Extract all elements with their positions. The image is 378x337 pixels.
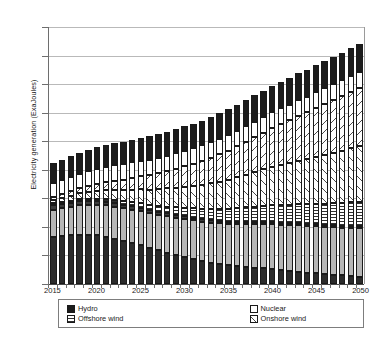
stacked-bar[interactable] (138, 138, 144, 284)
bar-slot-2037[interactable] (242, 27, 251, 284)
legend-item-nuclear[interactable]: Nuclear (250, 304, 327, 313)
stacked-bar[interactable] (85, 150, 91, 284)
bar-segment-onshore-wind (208, 183, 214, 209)
stacked-bar[interactable] (181, 126, 187, 284)
bar-segment-onshore-wind (295, 161, 301, 204)
bar-segment-solar-panels (190, 164, 196, 186)
bar-slot-2016[interactable] (58, 27, 67, 284)
bar-slot-2021[interactable] (102, 27, 111, 284)
bar-slot-2040[interactable] (268, 27, 277, 284)
bar-slot-2033[interactable] (207, 27, 216, 284)
stacked-bar[interactable] (129, 140, 135, 284)
bar-slot-2047[interactable] (329, 27, 338, 284)
bar-slot-2035[interactable] (224, 27, 233, 284)
stacked-bar[interactable] (146, 136, 152, 284)
bar-segment-nuclear (129, 162, 135, 178)
bar-segment-solar-panels (216, 154, 222, 181)
bar-slot-2030[interactable] (180, 27, 189, 284)
bar-slot-2015[interactable] (49, 27, 58, 284)
bar-segment-offshore-wind (304, 204, 310, 224)
legend-label: Nuclear (261, 304, 286, 313)
stacked-bar[interactable] (356, 44, 362, 284)
bar-segment-hydro (146, 136, 152, 159)
stacked-bar[interactable] (120, 142, 126, 284)
stacked-bar[interactable] (155, 134, 161, 284)
stacked-bar[interactable] (234, 105, 240, 284)
stacked-bar[interactable] (251, 95, 257, 284)
bar-segment-solar-panels (208, 158, 214, 183)
stacked-bar[interactable] (330, 57, 336, 284)
bar-slot-2044[interactable] (303, 27, 312, 284)
bar-segment-coal (59, 236, 65, 284)
bar-slot-2023[interactable] (119, 27, 128, 284)
bar-slot-2049[interactable] (347, 27, 356, 284)
bar-segment-solar-panels (234, 146, 240, 177)
bar-segment-coal (339, 275, 345, 284)
bar-slot-2019[interactable] (84, 27, 93, 284)
bar-slot-2017[interactable] (67, 27, 76, 284)
bar-segment-nuclear (295, 100, 301, 116)
stacked-bar[interactable] (216, 113, 222, 284)
legend-item-onshore-wind[interactable]: Onshore wind (250, 314, 327, 323)
bar-segment-coal (199, 261, 205, 284)
bar-segment-coal (85, 235, 91, 284)
stacked-bar[interactable] (321, 61, 327, 284)
bar-slot-2032[interactable] (198, 27, 207, 284)
bar-slot-2034[interactable] (215, 27, 224, 284)
bar-slot-2041[interactable] (277, 27, 286, 284)
stacked-bar[interactable] (76, 153, 82, 284)
x-tick-mark-2037 (242, 284, 243, 288)
bar-slot-2024[interactable] (128, 27, 137, 284)
stacked-bar[interactable] (164, 132, 170, 284)
stacked-bar[interactable] (50, 163, 56, 284)
bar-slot-2031[interactable] (189, 27, 198, 284)
bar-slot-2050[interactable] (355, 27, 364, 284)
legend-item-offshore-wind[interactable]: Offshore wind (67, 314, 150, 323)
bar-segment-hydro (155, 134, 161, 157)
bar-slot-2045[interactable] (312, 27, 321, 284)
stacked-bar[interactable] (295, 73, 301, 284)
stacked-bar[interactable] (173, 129, 179, 284)
stacked-bar[interactable] (199, 121, 205, 284)
stacked-bar[interactable] (260, 91, 266, 284)
stacked-bar[interactable] (348, 48, 354, 284)
bar-slot-2022[interactable] (110, 27, 119, 284)
bar-slot-2027[interactable] (154, 27, 163, 284)
bar-slot-2018[interactable] (75, 27, 84, 284)
stacked-bar[interactable] (190, 124, 196, 284)
bar-segment-coal (129, 243, 135, 284)
bar-segment-solar-panels (173, 169, 179, 188)
bar-slot-2029[interactable] (172, 27, 181, 284)
bar-segment-gas (138, 211, 144, 245)
bar-slot-2046[interactable] (320, 27, 329, 284)
bar-segment-coal (103, 237, 109, 284)
bar-slot-2042[interactable] (285, 27, 294, 284)
stacked-bar[interactable] (59, 160, 65, 284)
bar-slot-2020[interactable] (93, 27, 102, 284)
bar-slot-2038[interactable] (250, 27, 259, 284)
stacked-bar[interactable] (339, 53, 345, 284)
bar-slot-2039[interactable] (259, 27, 268, 284)
stacked-bar[interactable] (269, 86, 275, 284)
legend-item-hydro[interactable]: Hydro (67, 304, 150, 313)
stacked-bar[interactable] (68, 156, 74, 284)
bar-slot-2043[interactable] (294, 27, 303, 284)
bar-segment-hydro (295, 73, 301, 100)
bar-slot-2048[interactable] (338, 27, 347, 284)
bar-slot-2036[interactable] (233, 27, 242, 284)
stacked-bar[interactable] (103, 145, 109, 284)
x-tick-mark-2039 (259, 284, 260, 288)
stacked-bar[interactable] (111, 143, 117, 284)
stacked-bar[interactable] (243, 100, 249, 284)
stacked-bar[interactable] (304, 70, 310, 284)
bar-segment-coal (269, 269, 275, 284)
stacked-bar[interactable] (278, 82, 284, 284)
bar-slot-2025[interactable] (137, 27, 146, 284)
bar-slot-2026[interactable] (145, 27, 154, 284)
stacked-bar[interactable] (208, 117, 214, 284)
stacked-bar[interactable] (225, 109, 231, 284)
stacked-bar[interactable] (94, 147, 100, 284)
bar-slot-2028[interactable] (163, 27, 172, 284)
stacked-bar[interactable] (286, 78, 292, 284)
stacked-bar[interactable] (313, 65, 319, 284)
